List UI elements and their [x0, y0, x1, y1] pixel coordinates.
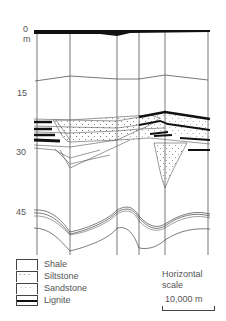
- scale-bar: [162, 306, 215, 311]
- depth-unit-label: m: [23, 35, 31, 44]
- lower-horizons: [34, 207, 210, 251]
- depth-label-0: 0: [23, 25, 28, 34]
- depth-label-45: 45: [16, 208, 26, 217]
- legend-item-sandstone: Sandstone: [16, 282, 87, 294]
- legend-item-lignite: Lignite: [16, 294, 87, 306]
- horizon-15: [35, 75, 208, 81]
- depth-label-30: 30: [16, 148, 26, 157]
- top-lignite: [34, 30, 210, 36]
- legend: Shale Siltstone Sandstone Lignite: [16, 258, 87, 306]
- lignite-swatch-icon: [16, 295, 38, 306]
- sandstone-lens: [154, 143, 187, 188]
- horizontal-scale: Horizontal scale 10,000 m: [162, 269, 203, 305]
- shale-swatch-icon: [16, 259, 38, 270]
- scale-title-line2: scale: [162, 280, 203, 291]
- depth-label-15: 15: [17, 89, 27, 98]
- scale-title-line1: Horizontal: [162, 269, 203, 280]
- scale-value: 10,000 m: [165, 294, 203, 305]
- sandstone-swatch-icon: [16, 283, 38, 294]
- legend-item-shale: Shale: [16, 258, 87, 270]
